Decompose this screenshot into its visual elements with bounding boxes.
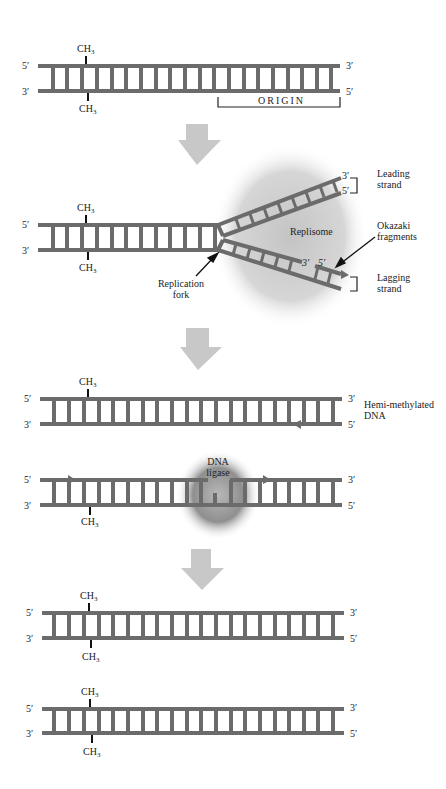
end-label-3prime: 3′ (26, 728, 33, 739)
end-label-3prime: 3′ (24, 500, 31, 511)
end-label-5prime: 5′ (26, 607, 33, 618)
fragment-3prime: 3′ (302, 257, 309, 268)
end-label-5prime: 5′ (350, 728, 357, 739)
end-label-5prime: 5′ (24, 393, 31, 404)
end-label-5prime: 5′ (346, 86, 353, 97)
leading-5prime: 5′ (342, 185, 349, 196)
end-label-5prime: 5′ (24, 474, 31, 485)
end-label-3prime: 3′ (348, 474, 355, 485)
end-label-3prime: 3′ (348, 393, 355, 404)
methylated-duplex-1 (42, 603, 344, 648)
end-label-5prime: 5′ (26, 703, 33, 714)
methyl-label: CH3 (82, 651, 99, 666)
base-pair-rungs (51, 66, 333, 91)
lagging-strand-label: Laggingstrand (377, 272, 410, 294)
end-label-3prime: 3′ (350, 607, 357, 618)
methylated-duplex-2 (42, 699, 344, 743)
down-arrow-3 (181, 549, 224, 590)
fragment-5prime: 5′ (318, 257, 325, 268)
end-label-3prime: 3′ (22, 245, 29, 256)
end-label-3prime: 3′ (346, 60, 353, 71)
dna-ligase-label: DNAligase (198, 456, 238, 478)
okazaki-fragments-label: Okazakifragments (377, 220, 417, 242)
methyl-label: CH3 (79, 262, 96, 277)
end-label-5prime: 5′ (348, 419, 355, 430)
down-arrow-2 (180, 328, 222, 370)
hemi-methylated-duplex (40, 389, 342, 429)
methyl-label: CH3 (80, 590, 97, 605)
dna-replication-diagram (0, 0, 446, 789)
methyl-label: CH3 (81, 686, 98, 701)
end-label-5prime: 5′ (22, 60, 29, 71)
hemi-methylated-label: Hemi-methylatedDNA (364, 399, 434, 421)
replisome-label: Replisome (290, 226, 333, 237)
methyl-label: CH3 (77, 202, 94, 217)
origin-label: ORIGIN (258, 95, 305, 106)
leading-strand-label: Leadingstrand (377, 168, 410, 190)
methyl-label: CH3 (83, 746, 100, 761)
end-label-3prime: 3′ (26, 633, 33, 644)
methyl-label: CH3 (79, 103, 96, 118)
end-label-3prime: 3′ (350, 702, 357, 713)
leading-3prime: 3′ (342, 170, 349, 181)
end-label-3prime: 3′ (24, 419, 31, 430)
methyl-label: CH3 (77, 43, 94, 58)
methyl-label: CH3 (79, 376, 96, 391)
methyl-tick-bottom (87, 93, 89, 101)
end-label-5prime: 5′ (348, 500, 355, 511)
end-label-5prime: 5′ (22, 219, 29, 230)
end-label-3prime: 3′ (22, 86, 29, 97)
methyl-label: CH3 (81, 516, 98, 531)
down-arrow-1 (178, 124, 221, 165)
end-label-5prime: 5′ (350, 633, 357, 644)
replication-fork-label: Replicationfork (153, 278, 209, 300)
